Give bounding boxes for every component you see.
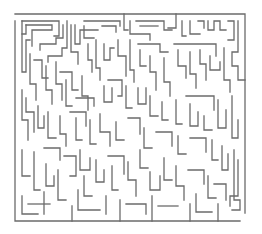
maze-wall xyxy=(196,194,212,212)
maze-wall xyxy=(76,98,94,106)
maze-wall xyxy=(96,160,104,182)
maze-wall xyxy=(78,190,100,210)
maze-wall xyxy=(232,96,238,138)
maze-wall xyxy=(56,62,62,100)
maze-wall xyxy=(140,150,148,168)
maze-wall xyxy=(58,170,66,200)
maze-wall xyxy=(48,112,56,138)
maze-wall xyxy=(46,66,52,104)
maze-wall xyxy=(126,204,146,214)
maze-wall xyxy=(150,172,160,190)
maze-wall xyxy=(190,21,200,34)
maze-wall xyxy=(164,58,170,96)
maze-wall xyxy=(128,118,140,134)
maze-wall xyxy=(144,128,152,148)
maze-wall xyxy=(116,122,124,140)
maze-wall xyxy=(75,25,98,44)
maze-wall xyxy=(34,152,40,190)
maze-wall xyxy=(222,146,228,170)
maze-wall xyxy=(224,48,230,92)
maze-wall xyxy=(130,40,134,82)
maze-wall xyxy=(124,14,128,30)
maze-wall xyxy=(138,44,168,52)
maze-wall xyxy=(208,21,226,30)
maze-wall xyxy=(96,40,100,80)
maze-wall xyxy=(22,21,59,36)
maze-wall xyxy=(22,196,38,214)
maze-wall xyxy=(26,98,34,132)
maze-wall xyxy=(232,150,240,210)
maze-wall xyxy=(208,176,216,198)
maze-wall xyxy=(48,21,67,62)
maze-wall xyxy=(100,114,110,146)
maze-wall xyxy=(210,56,220,70)
maze-wall xyxy=(22,150,30,176)
maze-wall xyxy=(26,25,52,46)
maze-wall xyxy=(60,72,78,90)
maze-wall xyxy=(30,54,36,100)
maze-wall xyxy=(76,118,82,140)
maze-wall xyxy=(90,120,96,144)
maze-wall xyxy=(60,116,66,146)
maze-wall xyxy=(200,50,206,80)
maze-wall xyxy=(178,136,186,154)
maze-wall xyxy=(108,80,122,96)
maze-wall xyxy=(204,116,212,130)
maze-wall xyxy=(140,50,146,66)
maze-wall xyxy=(126,86,132,108)
maze-wall xyxy=(80,150,90,170)
maze-wall xyxy=(212,140,218,160)
maze-wall xyxy=(38,106,44,128)
maze-wall xyxy=(15,21,240,221)
maze-wall xyxy=(118,40,126,76)
maze-wall xyxy=(88,44,92,72)
maze-wall xyxy=(190,104,198,126)
maze-wall xyxy=(182,21,186,36)
maze-wall xyxy=(108,156,124,174)
maze-wall xyxy=(104,44,114,60)
maze-wall xyxy=(84,176,92,196)
maze-wall xyxy=(218,100,226,128)
maze-wall xyxy=(138,88,146,104)
maze-wall xyxy=(130,21,150,40)
maze-wall xyxy=(84,21,120,26)
maze-wall xyxy=(168,14,176,28)
maze-wall xyxy=(156,132,172,146)
maze-wall xyxy=(84,26,94,38)
maze-wall xyxy=(82,76,88,110)
maze-wall xyxy=(64,156,76,176)
maze-wall xyxy=(112,166,118,190)
maze-wall xyxy=(150,96,158,116)
maze-wall xyxy=(162,102,168,120)
maze-wall xyxy=(66,80,72,106)
maze-board xyxy=(0,0,262,234)
maze-wall xyxy=(70,112,86,126)
maze-wall xyxy=(164,158,172,180)
maze-wall xyxy=(174,44,216,56)
maze-wall xyxy=(228,21,234,40)
maze-wall xyxy=(198,21,204,28)
maze-wall xyxy=(178,50,186,78)
maze-wall xyxy=(46,164,54,186)
maze-walls xyxy=(15,14,245,221)
maze-wall xyxy=(150,56,156,90)
maze-wall xyxy=(176,166,184,200)
maze-wall xyxy=(188,170,204,184)
maze-wall xyxy=(190,138,206,152)
maze-wall xyxy=(176,100,182,124)
maze-wall xyxy=(104,86,112,102)
maze-wall xyxy=(44,148,60,160)
maze-wall xyxy=(102,26,116,32)
maze-wall xyxy=(190,52,196,88)
maze-wall xyxy=(22,90,28,140)
maze-wall xyxy=(128,162,136,196)
